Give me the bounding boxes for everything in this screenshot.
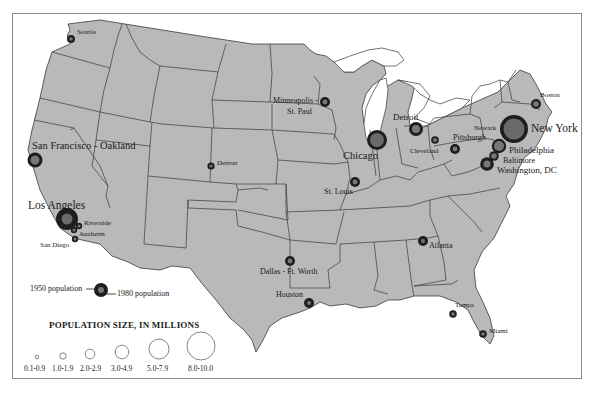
legend-range-1: 1.0-1.9 (52, 364, 73, 373)
legend-range-5: 8.0-10.0 (188, 364, 213, 373)
label-cleveland: Cleveland (410, 148, 438, 155)
label-minneapolis-line1: Minneapolis - (273, 97, 318, 105)
label-new-york: New York (531, 123, 578, 135)
label-dallas-ft-worth: Dallas - Ft. Worth (260, 268, 317, 276)
marker-miami (479, 330, 487, 338)
legend-range-2: 2.0-2.9 (80, 364, 101, 373)
label-tampa: Tampa (455, 302, 474, 309)
marker-boston (531, 99, 541, 109)
label-san-francisco-oakland: San Francisco - Oakland (32, 141, 136, 152)
marker-philadelphia (492, 139, 506, 153)
marker-cleveland (431, 136, 439, 144)
legend-circle-2 (85, 349, 95, 359)
marker-dallas (285, 256, 295, 266)
legend-circle-1 (60, 353, 66, 359)
label-washington-dc: Washington, DC (497, 166, 557, 175)
legend-title: POPULATION SIZE, IN MILLIONS (49, 320, 199, 330)
marker-san-francisco (28, 153, 43, 168)
legend-circle-4 (149, 339, 169, 359)
marker-new-york (500, 115, 528, 143)
legend-example-marker (86, 283, 116, 297)
label-denver: Denver (217, 160, 238, 167)
marker-seattle (67, 35, 75, 43)
label-boston: Boston (540, 92, 560, 99)
label-los-angeles: Los Angeles (28, 200, 85, 212)
marker-riverside (76, 223, 82, 229)
label-san-diego: San Diego (40, 242, 69, 249)
legend-range-0: 0.1-0.9 (24, 364, 45, 373)
label-miami: Miami (489, 328, 508, 335)
label-houston: Houston (276, 291, 303, 299)
label-minneapolis-line2: St. Paul (287, 108, 312, 116)
label-baltimore: Baltimore (503, 157, 535, 165)
marker-houston (304, 298, 314, 308)
label-pittsburgh: Pittsburgh (453, 134, 486, 142)
label-philadelphia: Philadelphia (509, 146, 554, 155)
legend-circle-0 (35, 355, 39, 359)
label-atlanta: Atlanta (429, 242, 453, 250)
marker-chicago (367, 130, 387, 150)
marker-washington (480, 157, 494, 171)
label-anaheim: Anaheim (79, 231, 105, 238)
label-seattle: Seattle (77, 29, 96, 36)
marker-san-diego (72, 236, 78, 242)
marker-st-louis (350, 177, 360, 187)
label-st-louis: St. Louis (324, 188, 353, 196)
label-detroit: Detroit (393, 113, 419, 122)
marker-detroit (409, 122, 423, 136)
marker-tampa (449, 310, 457, 318)
legend-1980-label: 1980 population (117, 290, 169, 298)
legend-range-4: 5.0-7.9 (147, 364, 168, 373)
label-chicago: Chicago (343, 151, 378, 162)
marker-atlanta (418, 236, 428, 246)
legend-circle-3 (115, 345, 129, 359)
marker-minneapolis (320, 97, 330, 107)
legend-circle-5 (187, 332, 215, 360)
legend-1950-label: 1950 population (30, 285, 82, 293)
marker-pittsburgh (450, 144, 460, 154)
marker-denver (207, 162, 214, 169)
legend-range-3: 3.0-4.9 (111, 364, 132, 373)
legend-size-circles (35, 332, 215, 360)
marker-anaheim (71, 227, 77, 233)
label-riverside: Riverside (84, 220, 111, 227)
label-newark: Newark (474, 125, 496, 132)
